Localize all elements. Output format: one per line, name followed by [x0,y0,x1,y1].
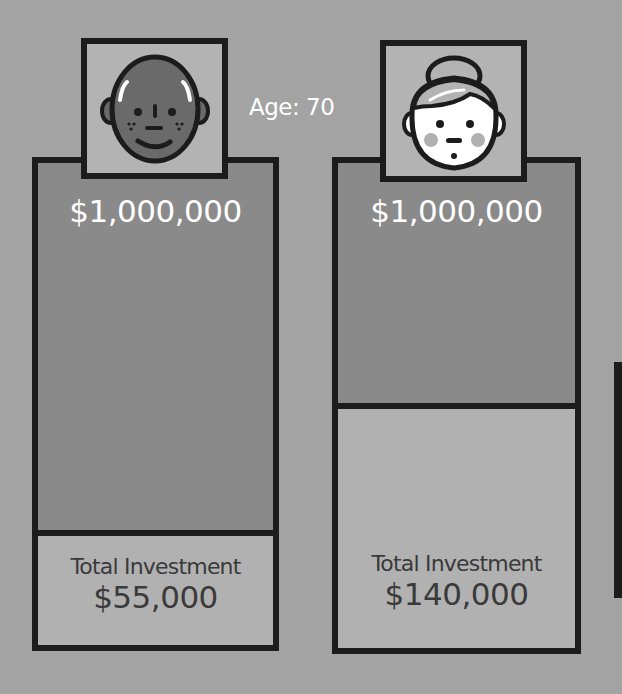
left-investment-label: Total Investment [38,554,273,579]
right-investment-section: Total Investment $140,000 [338,403,575,648]
partial-column-edge [614,362,622,598]
right-person-column: $1,000,000 Total Investment $140,000 [332,157,581,654]
right-growth-section: $1,000,000 [338,163,575,403]
right-avatar-frame [380,40,527,182]
left-avatar-frame [81,38,228,179]
right-investment-label: Total Investment [338,551,575,576]
age-label: Age: 70 [249,94,334,120]
right-final-value: $1,000,000 [338,193,575,229]
woman-hair-bun-avatar-icon [386,46,521,176]
left-investment-section: Total Investment $55,000 [38,530,273,645]
bald-man-avatar-icon [87,44,222,173]
right-investment-value: $140,000 [338,576,575,612]
left-investment-value: $55,000 [38,579,273,615]
left-person-column: $1,000,000 Total Investment $55,000 [32,157,279,651]
left-final-value: $1,000,000 [38,193,273,229]
left-growth-section: $1,000,000 [38,163,273,530]
